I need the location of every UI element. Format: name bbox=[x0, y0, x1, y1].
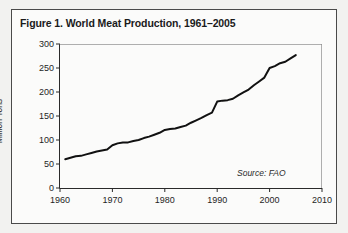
y-tick-label: 300 bbox=[28, 39, 54, 49]
data-series-line bbox=[65, 55, 296, 159]
chart-plot-area: Million Tons 050100150200250300 19601970… bbox=[0, 0, 348, 233]
figure-container: Figure 1. World Meat Production, 1961–20… bbox=[0, 0, 348, 233]
x-tick-label: 1980 bbox=[148, 195, 182, 205]
y-tick-label: 200 bbox=[28, 87, 54, 97]
y-tick-label: 0 bbox=[28, 183, 54, 193]
x-tick-label: 2010 bbox=[305, 195, 339, 205]
y-tick-label: 150 bbox=[28, 111, 54, 121]
x-tick-label: 1990 bbox=[200, 195, 234, 205]
y-tick-label: 50 bbox=[28, 159, 54, 169]
x-tick-label: 2000 bbox=[253, 195, 287, 205]
x-tick-label: 1970 bbox=[95, 195, 129, 205]
y-tick-label: 100 bbox=[28, 135, 54, 145]
x-tick-label: 1960 bbox=[43, 195, 77, 205]
y-tick-label: 250 bbox=[28, 63, 54, 73]
source-annotation: Source: FAO bbox=[237, 168, 286, 178]
